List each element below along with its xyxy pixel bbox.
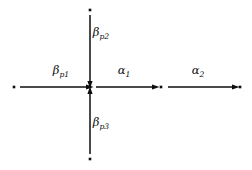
edges-group	[20, 15, 232, 154]
left-node-dot	[13, 86, 16, 89]
labels-group: βp1 βp2 βp3 α1 α2	[52, 25, 205, 131]
diagram-canvas: βp1 βp2 βp3 α1 α2	[0, 0, 252, 170]
root-system-diagram: βp1 βp2 βp3 α1 α2	[0, 0, 252, 170]
nodes-group	[13, 9, 242, 161]
middle-node-dot	[160, 86, 163, 89]
center-node-dot	[89, 86, 92, 89]
label-beta-p3: βp3	[92, 115, 110, 131]
label-alpha-2: α2	[192, 63, 205, 79]
label-alpha-1: α1	[118, 63, 131, 79]
right-node-dot	[239, 86, 242, 89]
label-beta-p2: βp2	[92, 25, 110, 41]
label-beta-p1: βp1	[52, 63, 69, 79]
top-node-dot	[89, 9, 92, 12]
bottom-node-dot	[89, 158, 92, 161]
arrowhead-alpha-2	[232, 84, 240, 89]
arrowhead-alpha-1	[152, 84, 160, 89]
